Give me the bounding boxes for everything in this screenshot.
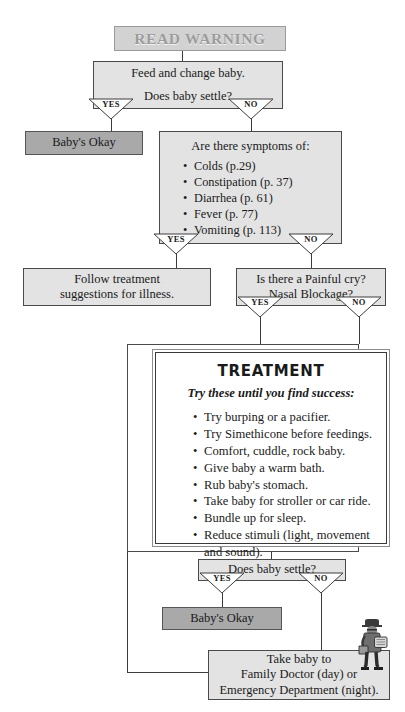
connector-feed-no [251, 119, 252, 131]
branch-no-painful: NO [336, 296, 382, 318]
babys-okay-top-label: Baby's Okay [26, 135, 142, 150]
node-symptoms: Are there symptoms of: Colds (p.29) Cons… [159, 131, 342, 244]
follow-line-2: suggestions for illness. [24, 287, 210, 302]
treatment-item: Reduce stimuli (light, movement and soun… [204, 527, 386, 561]
branch-yes-feed-label: YES [88, 99, 134, 109]
symptom-item: Colds (p.29) [194, 159, 341, 175]
connector-symptoms-yes [176, 254, 177, 268]
flowchart-canvas: READ WARNING Feed and change baby. Does … [0, 0, 405, 712]
connector-symptoms-no [311, 254, 312, 268]
node-treatment: TREATMENT Try these until you find succe… [155, 352, 387, 544]
connector-settle2-yes [222, 593, 223, 607]
branch-yes-settle2: YES [199, 572, 245, 594]
follow-line-1: Follow treatment [24, 272, 210, 287]
treatment-subtitle: Try these until you find success: [156, 386, 386, 401]
treatment-item: Rub baby's stomach. [204, 477, 386, 494]
node-follow-treatment: Follow treatment suggestions for illness… [23, 268, 211, 306]
treatment-item: Comfort, cuddle, rock baby. [204, 443, 386, 460]
treatment-item-last-line1: Reduce stimuli (light, movement [204, 528, 370, 542]
symptom-item: Constipation (p. 37) [194, 175, 341, 191]
symptom-item: Diarrhea (p. 61) [194, 191, 341, 207]
read-warning-banner: READ WARNING [114, 26, 286, 51]
treatment-item: Try burping or a pacifier. [204, 409, 386, 426]
connector-painful-yes-to-doctor [127, 672, 209, 673]
branch-no-feed-label: NO [228, 99, 274, 109]
branch-yes-painful-label: YES [237, 297, 283, 307]
node-babys-okay-top: Baby's Okay [25, 131, 143, 155]
feed-line-1: Feed and change baby. [94, 66, 282, 81]
connector-painful-no-down [359, 317, 360, 344]
connector-painful-yes-down [260, 317, 261, 344]
connector-feed-yes [111, 119, 112, 131]
treatment-item: Bundle up for sleep. [204, 510, 386, 527]
painful-line-1: Is there a Painful cry? [237, 272, 385, 287]
branch-no-symptoms: NO [288, 233, 334, 255]
branch-yes-feed: YES [88, 98, 134, 120]
node-babys-okay-bottom: Baby's Okay [162, 607, 282, 630]
treatment-list: Try burping or a pacifier. Try Simethico… [156, 409, 386, 561]
connector-settle2-no [321, 593, 322, 650]
branch-no-symptoms-label: NO [288, 234, 334, 244]
branch-no-settle2-label: NO [298, 573, 344, 583]
branch-yes-symptoms: YES [153, 233, 199, 255]
branch-yes-symptoms-label: YES [153, 234, 199, 244]
treatment-item: Try Simethicone before feedings. [204, 426, 386, 443]
symptom-item: Fever (p. 77) [194, 207, 341, 223]
branch-yes-settle2-label: YES [199, 573, 245, 583]
symptoms-heading: Are there symptoms of: [160, 139, 341, 154]
doctor-line-3: Emergency Department (night). [209, 683, 389, 698]
branch-no-feed: NO [228, 98, 274, 120]
babys-okay-bottom-label: Baby's Okay [163, 611, 281, 626]
symptoms-list: Colds (p.29) Constipation (p. 37) Diarrh… [160, 159, 341, 239]
read-warning-label: READ WARNING [134, 30, 265, 48]
person-carrying-baby-icon [352, 617, 392, 673]
treatment-item-last-line2: and sound). [204, 544, 386, 561]
branch-no-settle2: NO [298, 572, 344, 594]
branch-no-painful-label: NO [336, 297, 382, 307]
treatment-item: Take baby for stroller or car ride. [204, 493, 386, 510]
branch-yes-painful: YES [237, 296, 283, 318]
treatment-title: TREATMENT [156, 362, 386, 380]
treatment-item: Give baby a warm bath. [204, 460, 386, 477]
